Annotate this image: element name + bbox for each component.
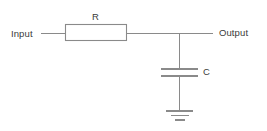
resistor-symbol [66, 25, 127, 41]
circuit-diagram: Input Output R C [0, 0, 267, 131]
output-terminal-label: Output [219, 27, 248, 38]
input-terminal-label: Input [11, 28, 33, 39]
capacitor-label: C [203, 66, 210, 77]
resistor-label: R [92, 11, 99, 22]
schematic-svg [0, 0, 267, 131]
